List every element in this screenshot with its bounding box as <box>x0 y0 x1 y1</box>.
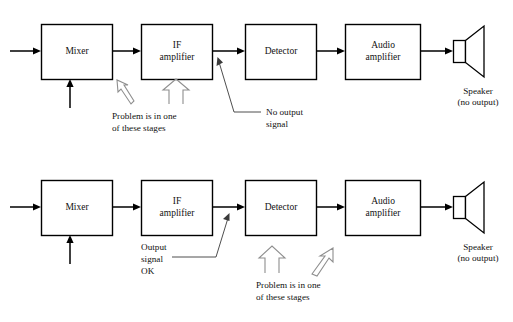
block-label-if-bottom-line1: IF <box>173 196 181 206</box>
annotation-output-ok-line1: Output <box>141 242 167 252</box>
annotation-problem-top-line1: Problem is in one <box>112 111 177 121</box>
wire-audio-to-speaker-top <box>420 47 453 54</box>
annotation-no-output-top-line1: No output <box>266 107 303 117</box>
annotation-output-ok-line3: OK <box>141 266 155 276</box>
block-label-audio-top-line2: amplifier <box>366 52 402 62</box>
annotation-output-ok-line2: signal <box>141 254 163 264</box>
input-arrow-bottom-top <box>66 79 73 108</box>
wire-detector-to-audio-top <box>316 47 345 54</box>
block-audio-amplifier-top: Audio amplifier <box>346 25 421 80</box>
wire-mixer-to-if-top <box>112 47 141 54</box>
wire-mixer-to-if-bottom <box>112 203 141 210</box>
annotation-problem-bottom-line1: Problem is in one <box>256 280 321 290</box>
speaker-label-top-line2: (no output) <box>457 97 498 107</box>
block-label-audio-top-line1: Audio <box>371 40 395 50</box>
block-label-if-bottom-line2: amplifier <box>160 208 196 218</box>
wire-audio-to-speaker-bottom <box>420 203 453 210</box>
block-label-mixer-top: Mixer <box>65 46 89 56</box>
wire-if-to-detector-bottom <box>212 203 245 210</box>
callout-arrow-vertical-bottom <box>259 246 285 273</box>
block-audio-amplifier-bottom: Audio amplifier <box>346 181 421 236</box>
diagram-bottom: Mixer IF amplifier Detector <box>10 181 499 303</box>
block-label-if-top-line1: IF <box>173 40 181 50</box>
block-if-amplifier-bottom: IF amplifier <box>142 181 213 236</box>
block-detector-top: Detector <box>246 25 317 80</box>
speaker-icon-top <box>454 26 485 77</box>
speaker-label-bottom-line2: (no output) <box>457 253 498 263</box>
annotation-no-output-top-line2: signal <box>266 119 288 129</box>
callout-arrow-diagonal-top <box>117 80 134 104</box>
wire-if-to-detector-top <box>212 47 245 54</box>
block-label-detector-top: Detector <box>265 46 299 56</box>
block-mixer-top: Mixer <box>42 25 113 80</box>
annotation-problem-top-line2: of these stages <box>112 123 166 133</box>
block-label-if-top-line2: amplifier <box>160 52 196 62</box>
block-label-detector-bottom: Detector <box>265 202 299 212</box>
block-if-amplifier-top: IF amplifier <box>142 25 213 80</box>
input-arrow-bottom-bottom <box>66 235 73 264</box>
block-detector-bottom: Detector <box>246 181 317 236</box>
block-mixer-bottom: Mixer <box>42 181 113 236</box>
input-arrow-left-bottom <box>10 203 41 210</box>
figure-canvas: Mixer IF amplifier Detector <box>0 0 513 322</box>
wire-detector-to-audio-bottom <box>316 203 345 210</box>
annotation-problem-bottom-line2: of these stages <box>256 292 310 302</box>
input-arrow-left-top <box>10 47 41 54</box>
speaker-icon-bottom <box>454 182 485 233</box>
block-label-mixer-bottom: Mixer <box>65 202 89 212</box>
diagram-top: Mixer IF amplifier Detector <box>10 25 499 134</box>
callout-arrow-diagonal-bottom <box>312 248 333 276</box>
block-label-audio-bottom-line2: amplifier <box>366 208 402 218</box>
callout-arrow-vertical-top <box>163 79 189 104</box>
speaker-label-top-line1: Speaker <box>463 86 493 96</box>
block-label-audio-bottom-line1: Audio <box>371 196 395 206</box>
speaker-label-bottom-line1: Speaker <box>463 242 493 252</box>
